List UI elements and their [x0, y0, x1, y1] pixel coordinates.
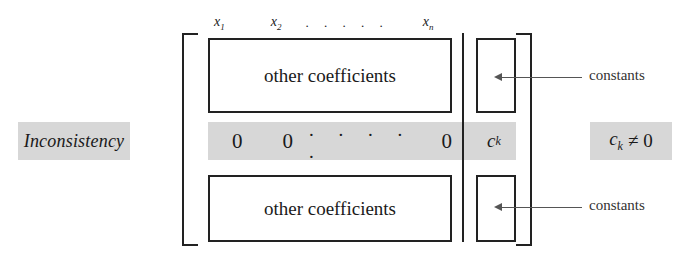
column-header-x2-subscript: 2 [277, 22, 282, 32]
zero-row: 0 0 . . . . . 0 [208, 122, 452, 160]
arrow-left-icon-constants-bottom [494, 203, 502, 211]
condition-variable-subscript: k [618, 139, 623, 153]
column-header-x1-subscript: 1 [220, 22, 225, 32]
arrow-left-icon-constants-top [494, 73, 502, 81]
inconsistency-label: Inconsistency [18, 122, 130, 160]
condition-value: 0 [643, 130, 653, 152]
pivot-constant-subscript: k [496, 134, 501, 149]
not-equal-icon: ≠ [628, 130, 638, 152]
column-header-ellipsis: . . . . . [305, 15, 388, 31]
zero-row-ellipsis: . . . . . [309, 119, 420, 163]
leader-line-constants-top [496, 77, 582, 78]
zero-entry-first: 0 [232, 129, 243, 154]
figure-canvas: Inconsistency x1 x2 . . . . . xn other c… [0, 0, 693, 270]
pivot-constant-ck: ck [470, 122, 518, 160]
pivot-constant-symbol: c [487, 130, 495, 152]
augmented-matrix-divider [462, 33, 464, 242]
annotation-constants-bottom: constants [589, 197, 645, 214]
column-header-x2: x2 [271, 14, 282, 32]
zero-entry-last: 0 [442, 129, 453, 154]
zero-entry-second: 0 [283, 129, 294, 154]
column-header-xn: xn [423, 14, 434, 32]
annotation-constants-top: constants [589, 67, 645, 84]
condition-variable: ck [609, 128, 623, 154]
coefficient-block-top: other coefficients [208, 38, 452, 113]
leader-line-constants-bottom [496, 207, 582, 208]
column-header-x1: x1 [214, 14, 225, 32]
coefficient-block-bottom: other coefficients [208, 175, 452, 242]
matrix-bracket-right [516, 33, 532, 246]
column-variable-headers: x1 x2 . . . . . xn [208, 12, 452, 34]
condition-expression: ck ≠ 0 [590, 122, 672, 160]
column-header-xn-subscript: n [429, 22, 434, 32]
matrix-bracket-left [182, 33, 198, 246]
